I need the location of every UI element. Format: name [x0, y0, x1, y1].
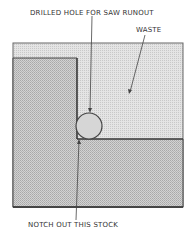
- notch-label: NOTCH OUT THIS STOCK: [28, 221, 118, 229]
- waste-label: WASTE: [136, 26, 161, 34]
- joint-diagram: [0, 0, 193, 237]
- drilled-hole-label: DRILLED HOLE FOR SAW RUNOUT: [30, 9, 154, 17]
- drilled-hole: [76, 113, 102, 139]
